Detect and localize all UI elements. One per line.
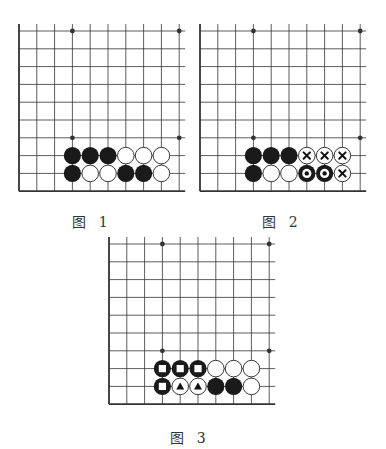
black-stone-icon [64, 165, 81, 182]
white-stone-triangle-marked [190, 378, 207, 395]
square-mark-icon [159, 365, 166, 372]
white-stone [281, 165, 298, 182]
black-stone-icon [207, 378, 224, 395]
star-point [267, 348, 272, 353]
white-stone [225, 360, 242, 377]
white-stone-icon [225, 360, 242, 377]
go-board-figure-1 [19, 24, 185, 191]
white-stone-cross-marked [299, 147, 316, 164]
black-stone-icon [82, 147, 99, 164]
black-stone-icon [245, 165, 262, 182]
white-stone-icon [82, 165, 99, 182]
white-stone-icon [263, 165, 280, 182]
black-stone [135, 165, 152, 182]
star-point [177, 135, 182, 140]
white-stone-triangle-marked [172, 378, 189, 395]
black-stone-icon [245, 147, 262, 164]
star-point [251, 29, 256, 34]
black-stone-square-marked [189, 360, 206, 377]
black-stone [64, 165, 81, 182]
caption-figure-1: 图 1 [72, 211, 111, 231]
black-stone [280, 147, 297, 164]
white-stone-icon [118, 147, 135, 164]
black-stone-circle-marked [316, 165, 333, 182]
go-board-figure-3 [109, 237, 275, 404]
square-mark-icon [177, 365, 184, 372]
white-stone-icon [153, 165, 170, 182]
white-stone-cross-marked [334, 165, 351, 182]
black-stone-icon [135, 165, 152, 182]
black-stone-square-marked [172, 360, 189, 377]
black-stone [82, 147, 99, 164]
white-stone [243, 360, 260, 377]
circle-mark-center-icon [305, 171, 309, 175]
black-stone [99, 147, 116, 164]
black-stone-square-marked [154, 378, 171, 395]
white-stone-icon [243, 378, 260, 395]
white-stone [153, 165, 170, 182]
black-stone [225, 378, 242, 395]
star-point [358, 135, 363, 140]
white-stone [118, 147, 135, 164]
star-point [70, 135, 75, 140]
black-stone [245, 147, 262, 164]
black-stone [207, 378, 224, 395]
white-stone [243, 378, 260, 395]
star-point [251, 135, 256, 140]
square-mark-icon [159, 383, 166, 390]
star-point [70, 29, 75, 34]
black-stone-icon [280, 147, 297, 164]
caption-figure-2: 图 2 [262, 211, 301, 231]
white-stone-cross-marked [334, 147, 351, 164]
star-point [177, 29, 182, 34]
white-stone-icon [135, 147, 152, 164]
white-stone-cross-marked [316, 147, 333, 164]
white-stone [135, 147, 152, 164]
square-mark-icon [194, 365, 201, 372]
white-stone [263, 165, 280, 182]
star-point [160, 348, 165, 353]
caption-figure-3: 图 3 [170, 427, 209, 447]
white-stone [100, 165, 117, 182]
white-stone-icon [100, 165, 117, 182]
go-diagrams-figure [0, 0, 386, 449]
white-stone-icon [153, 147, 170, 164]
go-board-figure-2 [200, 24, 366, 191]
black-stone [263, 147, 280, 164]
black-stone-square-marked [154, 360, 171, 377]
black-stone-icon [117, 165, 134, 182]
white-stone [208, 360, 225, 377]
white-stone [82, 165, 99, 182]
black-stone-icon [64, 147, 81, 164]
black-stone-icon [263, 147, 280, 164]
black-stone-icon [225, 378, 242, 395]
white-stone-icon [208, 360, 225, 377]
black-stone-circle-marked [298, 165, 315, 182]
star-point [160, 242, 165, 247]
black-stone [117, 165, 134, 182]
white-stone-icon [281, 165, 298, 182]
star-point [358, 29, 363, 34]
black-stone [245, 165, 262, 182]
black-stone [64, 147, 81, 164]
star-point [267, 242, 272, 247]
black-stone-icon [99, 147, 116, 164]
circle-mark-center-icon [322, 171, 326, 175]
white-stone-icon [243, 360, 260, 377]
white-stone [153, 147, 170, 164]
